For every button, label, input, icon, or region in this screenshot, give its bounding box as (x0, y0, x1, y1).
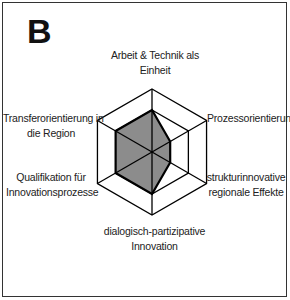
axis-label-prozessorientierung: Prozessorientierung (207, 111, 287, 126)
axis-label-transferorientierung: Transferorientierung in die Region (3, 111, 99, 141)
radar-spokes-overlay (97, 89, 206, 215)
radar-data-polygon (116, 110, 171, 194)
axis-label-qualifikation: Qualifikation für Innovationsprozesse (6, 170, 96, 200)
radar-chart (0, 0, 290, 300)
axis-label-strukturinnovative-effekte: strukturinnovative regionale Effekte (205, 170, 287, 200)
axis-label-arbeit-technik: Arbeit & Technik als Einheit (100, 48, 210, 78)
axis-label-dialogisch-partizipative: dialogisch-partizipative Innovation (92, 224, 217, 254)
